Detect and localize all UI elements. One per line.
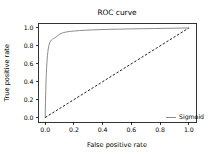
plot-canvas: 0.00.20.40.60.81.0 0.00.20.40.60.81.0 RO… [0,0,212,154]
y-axis-label: True positive rate [3,44,11,102]
y-tick-label: 0.2 [24,96,34,103]
x-tick-label: 0.2 [69,126,79,133]
chart-title: ROC curve [97,8,137,17]
y-tick-label: 0.4 [24,78,34,85]
x-tick-label: 1.0 [184,126,194,133]
roc-curve-figure: 0.00.20.40.60.81.0 0.00.20.40.60.81.0 RO… [0,0,212,154]
y-tick-label: 1.0 [24,24,34,31]
x-tick-label: 0.4 [98,126,108,133]
x-tick-label: 0.8 [155,126,165,133]
x-axis-label: False positive rate [87,141,147,149]
y-tick-label: 0.6 [24,60,34,67]
y-tick-label: 0.0 [24,114,34,121]
legend-label-sigmoid: Sigmoid [179,113,204,121]
x-tick-label: 0.0 [40,126,50,133]
x-tick-label: 0.6 [126,126,136,133]
y-tick-label: 0.8 [24,42,34,49]
